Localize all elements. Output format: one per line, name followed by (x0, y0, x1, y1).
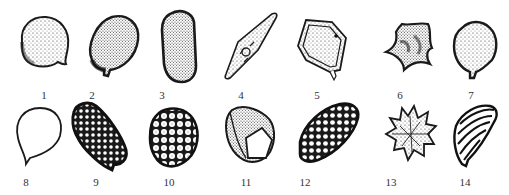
specimen-5-drawing (298, 20, 346, 80)
specimen-label-3: 3 (152, 89, 172, 101)
specimen-label-14: 14 (455, 176, 475, 188)
specimen-9-drawing (73, 103, 127, 170)
specimen-label-1: 1 (34, 89, 54, 101)
specimen-11-drawing (226, 107, 274, 162)
specimen-label-2: 2 (82, 89, 102, 101)
specimen-label-9: 9 (86, 176, 106, 188)
specimen-10-drawing (150, 109, 198, 167)
specimen-6-drawing (386, 23, 432, 70)
specimen-13-drawing (386, 106, 436, 160)
specimen-12-drawing (300, 104, 358, 162)
specimen-3-drawing (162, 11, 196, 82)
specimen-4-drawing (225, 13, 277, 79)
specimen-label-7: 7 (461, 89, 481, 101)
figure-drawings (0, 0, 509, 195)
specimen-label-6: 6 (390, 89, 410, 101)
specimen-label-4: 4 (231, 89, 251, 101)
specimen-label-12: 12 (295, 176, 315, 188)
specimen-label-5: 5 (307, 89, 327, 101)
specimen-2-drawing (90, 16, 138, 76)
specimen-14-drawing (454, 106, 496, 166)
specimen-8-drawing (17, 108, 61, 164)
specimen-label-8: 8 (16, 176, 36, 188)
figure-plate: 1 2 3 4 5 6 7 8 9 10 11 12 13 14 (0, 0, 509, 195)
specimen-label-10: 10 (159, 176, 179, 188)
specimen-label-13: 13 (381, 176, 401, 188)
specimen-1-drawing (22, 17, 68, 67)
specimen-label-11: 11 (236, 176, 256, 188)
specimen-7-drawing (454, 22, 496, 78)
